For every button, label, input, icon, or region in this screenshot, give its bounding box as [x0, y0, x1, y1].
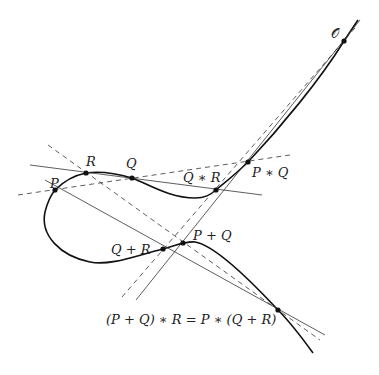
- elliptic-curve-diagram: 𝒪 P ∗ Q Q ∗ R R Q P P + Q Q + R (P + Q) …: [0, 0, 379, 375]
- label-PstarQ: P ∗ Q: [252, 166, 289, 179]
- label-Q: Q: [126, 157, 137, 170]
- label-QplusR: Q + R: [111, 243, 151, 256]
- elliptic-curve: [44, 20, 358, 353]
- label-PplusQ: P + Q: [193, 229, 232, 242]
- label-QstarR: Q ∗ R: [183, 171, 221, 184]
- point-PstarQ: [245, 159, 250, 164]
- label-P: P: [50, 177, 59, 190]
- point-Q: [129, 175, 134, 180]
- label-O: 𝒪: [331, 27, 339, 40]
- point-assoc: [275, 307, 280, 312]
- point-O: [341, 38, 346, 43]
- label-R: R: [86, 155, 96, 168]
- point-QplusR: [160, 246, 165, 251]
- point-R: [83, 170, 88, 175]
- label-assoc: (P + Q) ∗ R = P ∗ (Q + R): [106, 313, 276, 326]
- point-QstarR: [213, 187, 218, 192]
- line-PstarQ-O: [122, 28, 355, 297]
- point-PplusQ: [180, 240, 185, 245]
